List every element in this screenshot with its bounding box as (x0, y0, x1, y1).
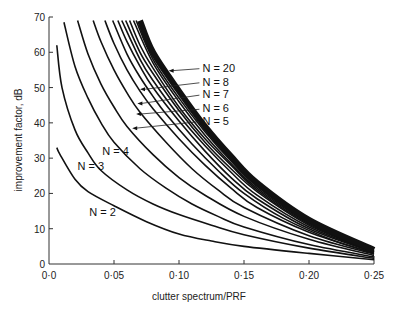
curve-n11 (126, 21, 374, 252)
y-tick-label: 60 (34, 47, 46, 58)
x-tick-label: 0·0 (42, 270, 57, 281)
y-tick-label: 10 (34, 224, 46, 235)
y-tick-label: 0 (39, 259, 45, 270)
arrowhead-icon (169, 69, 174, 73)
arrowhead-icon (136, 112, 141, 116)
curve-label: N = 5 (202, 115, 229, 127)
y-tick-label: 50 (34, 83, 46, 94)
curve-label: N = 20 (202, 62, 235, 74)
leader-line (141, 95, 199, 103)
curve-n6 (93, 21, 374, 255)
leader-line (173, 69, 200, 71)
curve-label: N = 6 (202, 102, 229, 114)
arrowhead-icon (132, 126, 137, 130)
curve-label: N = 4 (102, 145, 129, 157)
y-tick-label: 20 (34, 188, 46, 199)
x-axis-title: clutter spectrum/PRF (152, 291, 246, 302)
curve-n12 (130, 21, 374, 252)
curve-label: N = 2 (89, 206, 116, 218)
arrowhead-icon (140, 87, 145, 91)
y-tick-label: 40 (34, 118, 46, 129)
y-tick-label: 70 (34, 12, 46, 23)
y-axis-title: improvement factor, dB (13, 88, 24, 191)
curve-label: N = 3 (78, 160, 105, 172)
curve-label: N = 7 (202, 88, 229, 100)
x-tick-label: 0·10 (169, 270, 189, 281)
x-tick-label: 0·05 (104, 270, 124, 281)
improvement-factor-chart: 0102030405060700·00·050·100·150·200·25 N… (0, 0, 399, 312)
x-tick-label: 0·15 (234, 270, 254, 281)
arrowhead-icon (137, 101, 142, 105)
x-tick-label: 0·20 (299, 270, 319, 281)
curve-label: N = 8 (202, 76, 229, 88)
curve-n14 (134, 21, 375, 251)
curves (57, 21, 374, 260)
x-tick-label: 0·25 (364, 270, 384, 281)
y-tick-label: 30 (34, 153, 46, 164)
curve-n2 (57, 148, 374, 260)
curve-n16 (136, 21, 374, 251)
